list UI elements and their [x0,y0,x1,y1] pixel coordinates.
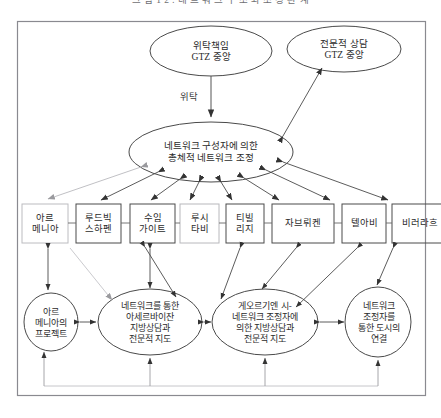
edge-center-tbilisi [221,182,232,200]
ellipse-armenia-project [24,293,78,351]
edge-center-saarbrucken [244,178,279,200]
ellipse-wittak-chaekim [150,26,272,76]
box-telaviv [342,204,386,243]
box-ludwigshafen [76,204,121,243]
ellipse-azerbaijan-advisory [98,289,202,355]
ellipse-network-coordination [129,122,293,182]
edge-armenia-to-azerbaijan-light [70,248,112,300]
box-sumgait [130,204,175,243]
ellipse-city-linkage [345,287,411,357]
edge-label-wittak: 위탁 [180,89,198,103]
ellipse-jeonmunjeok-sangdam [287,26,401,72]
edge-center-ludwigshafen [101,172,158,200]
edge-saarbrucken-to-georgia [262,248,296,289]
edge-center-rustavi [190,182,199,200]
edge-center-sumgait [151,179,180,200]
edge-center-to-consulting [283,68,322,136]
box-armenia [22,204,68,243]
box-rustavi [180,204,219,243]
figure-frame [18,22,426,396]
edge-biberach-to-linkage [377,248,393,285]
edge-telaviv-to-georgia [296,248,357,307]
diagram-canvas [0,0,441,418]
edge-center-telaviv [266,170,330,200]
edge-tbilisi-to-georgia [221,248,240,299]
figure-container: 그 림 1 2 : 네 트 워 크 구 조 와 조 정 관 계 [0,0,441,418]
ellipse-georgia-advisory [212,289,318,355]
box-saarbrucken [272,204,334,243]
edge-center-armenia [48,167,141,199]
box-biberach [392,204,441,243]
edge-center-biberach [283,162,388,200]
box-tbilisi [226,204,264,243]
